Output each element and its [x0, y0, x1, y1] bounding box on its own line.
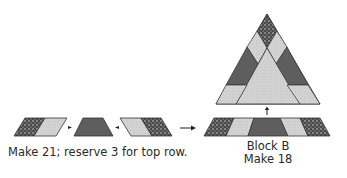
arrow-left-small-icon: [115, 126, 119, 129]
unit-caption: Make 21; reserve 3 for top row.: [8, 146, 187, 159]
unit-middle-trapezoid: [74, 118, 113, 136]
block-b-triangle: [216, 14, 320, 104]
unit-right-parallelogram: [120, 118, 172, 136]
arrow-right-icon: [180, 126, 196, 131]
block-caption: Block B Make 18: [238, 140, 298, 166]
arrow-up-icon: [265, 107, 269, 116]
arrow-right-small-icon: [68, 126, 72, 129]
unit-left-parallelogram: [14, 118, 67, 136]
block-strip: [204, 118, 330, 136]
block-make-count: Make 18: [238, 153, 298, 166]
